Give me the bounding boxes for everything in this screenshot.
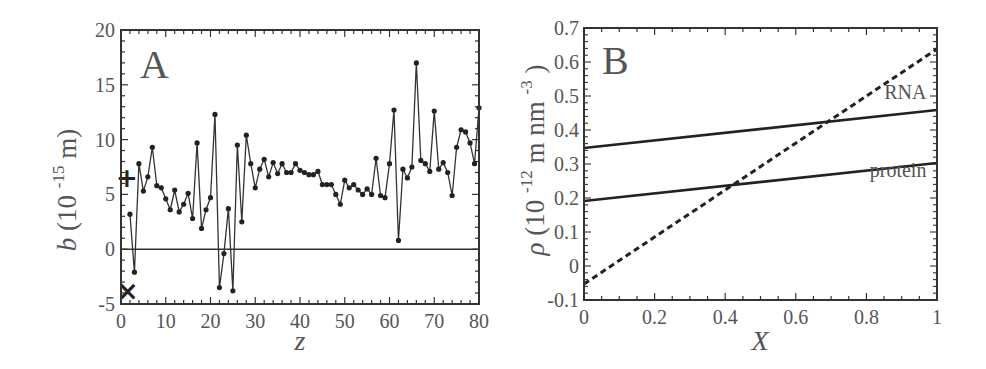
panel-a-ylabel-symbol: b <box>52 238 82 252</box>
svg-text:1: 1 <box>932 306 942 328</box>
svg-text:0.2: 0.2 <box>642 306 667 328</box>
panel-b-xlabel: X <box>750 325 769 356</box>
panel-a-ticks <box>121 30 479 304</box>
panel-b-ylabel-unit: m nm <box>520 101 550 163</box>
panel-a-letter: A <box>140 42 169 87</box>
svg-text:0.7: 0.7 <box>554 17 579 39</box>
panel-a-ylabel-exp: -15 <box>49 166 68 189</box>
panel-b-ylabel-exp: -12 <box>517 170 536 193</box>
svg-text:0: 0 <box>105 238 115 260</box>
panel-a-markers: +× <box>116 163 139 306</box>
svg-text:0: 0 <box>116 310 126 332</box>
panel-a-chart: 01020304050607080-505101520 +× A z b (10… <box>40 19 489 356</box>
svg-text:20: 20 <box>95 19 115 41</box>
svg-text:20: 20 <box>201 310 221 332</box>
panel-a-xlabel: z <box>294 325 306 356</box>
svg-text:0.6: 0.6 <box>554 51 579 73</box>
svg-text:+: + <box>116 163 138 193</box>
svg-text:0: 0 <box>569 255 579 277</box>
svg-text:5: 5 <box>105 183 115 205</box>
annotation-protein: protein <box>870 159 927 182</box>
svg-text:0.5: 0.5 <box>554 85 579 107</box>
panel-b-annotations: RNAprotein <box>870 81 927 182</box>
svg-text:80: 80 <box>469 310 489 332</box>
panel-a-frame <box>121 30 479 304</box>
svg-text:15: 15 <box>95 74 115 96</box>
svg-text:0.4: 0.4 <box>713 306 738 328</box>
svg-text:70: 70 <box>424 310 444 332</box>
svg-text:-0.1: -0.1 <box>547 289 579 311</box>
svg-text:0.2: 0.2 <box>554 187 579 209</box>
panel-b-ylabel-paren: (10 <box>520 200 550 236</box>
svg-text:0.3: 0.3 <box>554 153 579 175</box>
figure: 01020304050607080-505101520 +× A z b (10… <box>0 0 986 369</box>
annotation-RNA: RNA <box>884 81 927 103</box>
svg-text:0.8: 0.8 <box>854 306 879 328</box>
panel-a-data-line <box>130 63 479 291</box>
panel-b-letter: B <box>602 38 629 83</box>
panel-b-chart: 00.20.40.60.81-0.100.10.20.30.40.50.60.7… <box>508 17 942 356</box>
svg-text:60: 60 <box>380 310 400 332</box>
svg-text:10: 10 <box>156 310 176 332</box>
svg-text:0.6: 0.6 <box>783 306 808 328</box>
svg-text:50: 50 <box>335 310 355 332</box>
panel-a-ylabel-unit: m) <box>52 129 82 159</box>
svg-text:0.4: 0.4 <box>554 119 579 141</box>
panel-b-ylabel-unit-exp: -3 <box>517 80 536 94</box>
panel-a-ylabel: b (10 -15 m) <box>40 129 82 251</box>
panel-a-ylabel-paren: (10 <box>52 195 82 231</box>
svg-text:0: 0 <box>579 306 589 328</box>
svg-text:b (10 -15: b (10 -15 m) <box>40 129 82 251</box>
panel-b-ylabel: ρ (10 -12 m nm -3 ) <box>508 65 550 257</box>
panel-b-ylabel-close: ) <box>520 65 550 74</box>
svg-text:-5: -5 <box>98 293 115 315</box>
svg-text:0.1: 0.1 <box>554 221 579 243</box>
series-line-RNA <box>584 110 937 148</box>
panel-a-data-points <box>127 60 481 293</box>
svg-text:ρ (10 -12: ρ (10 -12 m nm -3 ) <box>508 65 550 257</box>
panel-b-ylabel-symbol: ρ <box>520 242 550 256</box>
svg-text:10: 10 <box>95 129 115 151</box>
svg-text:30: 30 <box>245 310 265 332</box>
